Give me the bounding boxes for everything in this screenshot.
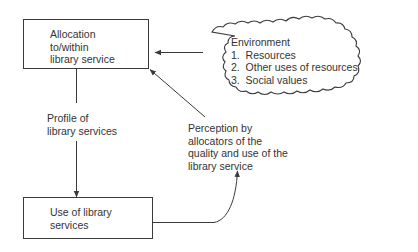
perception-line-2: allocators of the	[188, 135, 288, 148]
use-line-2: services	[50, 219, 112, 232]
environment-item-3: 3. Social values	[231, 74, 358, 87]
use-label: Use of library services	[50, 206, 112, 231]
profile-label: Profile of library services	[47, 112, 117, 137]
use-line-1: Use of library	[50, 206, 112, 219]
perception-line-3: quality and use of the	[188, 147, 288, 160]
environment-item-2: 2. Other uses of resources	[231, 61, 358, 74]
environment-title: Environment	[231, 36, 358, 49]
perception-line-4: library service	[188, 160, 288, 173]
environment-item-1: 1. Resources	[231, 49, 358, 62]
use-to-perception-arrow	[153, 171, 238, 223]
environment-label: Environment 1. Resources 2. Other uses o…	[231, 36, 358, 86]
profile-line-1: Profile of	[47, 112, 117, 125]
allocation-label: Allocation to/within library service	[50, 28, 115, 66]
perception-line-1: Perception by	[188, 122, 288, 135]
allocation-line-1: Allocation	[50, 28, 115, 41]
profile-line-2: library services	[47, 125, 117, 138]
allocation-line-3: library service	[50, 53, 115, 66]
allocation-line-2: to/within	[50, 41, 115, 54]
perception-arrow	[150, 70, 205, 118]
perception-label: Perception by allocators of the quality …	[188, 122, 288, 172]
